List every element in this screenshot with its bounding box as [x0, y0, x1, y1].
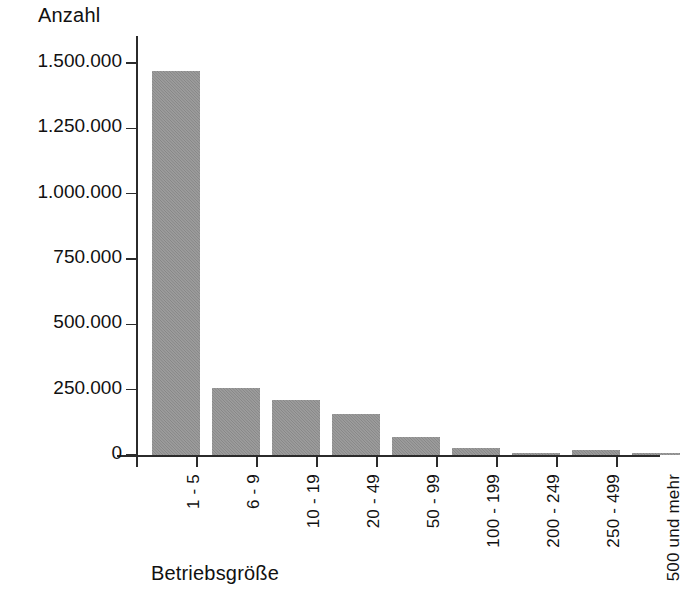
x-axis-category-label: 200 - 249	[544, 474, 564, 548]
x-axis-category-label: 1 - 5	[184, 474, 204, 509]
bar	[572, 450, 620, 455]
x-axis-category-label: 6 - 9	[244, 474, 264, 509]
x-axis-tick	[196, 456, 198, 467]
x-axis-tick	[376, 456, 378, 467]
bar	[392, 437, 440, 455]
x-axis-category-label: 20 - 49	[364, 474, 384, 528]
x-axis-tick	[436, 456, 438, 467]
bar	[332, 414, 380, 455]
x-axis-category-label: 100 - 199	[484, 474, 504, 548]
bar	[212, 388, 260, 455]
x-axis-tick	[256, 456, 258, 467]
bar	[632, 453, 680, 455]
x-axis-category-label: 10 - 19	[304, 474, 324, 528]
bar	[152, 71, 200, 455]
bar	[272, 400, 320, 455]
x-axis-category-label: 50 - 99	[424, 474, 444, 528]
bar	[452, 448, 500, 455]
x-axis-tick	[136, 456, 138, 467]
x-axis-tick	[316, 456, 318, 467]
x-axis-tick	[556, 456, 558, 467]
bar	[512, 453, 560, 455]
x-axis-category-label: 500 und mehr	[664, 474, 684, 581]
x-axis-tick	[496, 456, 498, 467]
x-axis-tick	[616, 456, 618, 467]
x-axis-title: Betriebsgröße	[0, 562, 430, 585]
x-axis-category-label: 250 - 499	[604, 474, 624, 548]
